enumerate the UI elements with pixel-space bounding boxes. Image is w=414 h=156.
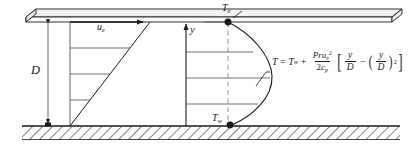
- equation-coefficient-fraction: Prue2 2cp: [311, 51, 334, 73]
- equation-wall-term: Tw: [288, 56, 298, 67]
- term2-exponent: 2: [394, 58, 397, 65]
- diagram-canvas: [0, 0, 414, 156]
- edge-velocity-label: ue: [97, 22, 105, 33]
- equation-plus: +: [298, 56, 309, 67]
- equation-term1-fraction: y D: [345, 51, 356, 73]
- term1-denominator: D: [345, 61, 356, 72]
- temperature-profile-curve: [228, 22, 272, 125]
- paren-open: (: [369, 53, 373, 71]
- upper-plate: [26, 9, 402, 22]
- term2-denominator: D: [376, 61, 387, 72]
- edge-temperature-marker: [225, 19, 232, 26]
- equation-leader: [256, 72, 270, 86]
- specific-heat-subscript: p: [325, 66, 328, 72]
- edge-temperature-subscript: e: [228, 7, 231, 14]
- couette-flow-diagram: D ue y Te Tw T = Tw + Prue2 2cp [ y D − …: [0, 0, 414, 156]
- bracket-open: [: [337, 49, 341, 74]
- equation-term2-fraction: y D: [376, 51, 387, 73]
- velocity-profile: [70, 22, 150, 126]
- upper-plate-front-face: [26, 17, 392, 22]
- bracket-close: ]: [398, 49, 402, 74]
- term2-numerator: y: [377, 51, 385, 61]
- gap-dimension-arrow: [45, 24, 51, 127]
- prandtl-number: Pr: [313, 50, 322, 60]
- equation-fraction-numerator: Prue2: [311, 51, 334, 61]
- y-axis-label: y: [190, 24, 195, 35]
- upper-plate-top-face: [26, 9, 402, 17]
- numerator-velocity-exponent: 2: [329, 50, 332, 56]
- term1-numerator: y: [346, 51, 354, 61]
- wall-temperature-marker: [227, 122, 234, 129]
- paren-close: ): [389, 53, 393, 71]
- equation-equals: =: [278, 56, 289, 67]
- equation-leader-line: [256, 72, 270, 86]
- wall-hatching: [22, 127, 400, 140]
- gap-label: D: [31, 64, 40, 77]
- wall-temperature-label: Tw: [212, 113, 222, 124]
- edge-temperature-label: Te: [222, 3, 231, 14]
- equation-fraction-denominator: 2cp: [315, 61, 330, 72]
- temperature-profile-equation: T = Tw + Prue2 2cp [ y D − ( y D ) 2 ]: [272, 49, 404, 74]
- temperature-profile: [186, 11, 272, 128]
- edge-velocity-subscript: e: [102, 26, 105, 33]
- lower-wall: [22, 126, 400, 140]
- gap-dimension-foot: [45, 123, 51, 127]
- equation-minus: −: [358, 56, 369, 67]
- wall-temperature-subscript: w: [218, 117, 222, 124]
